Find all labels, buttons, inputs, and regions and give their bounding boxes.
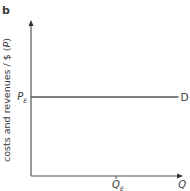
series-group: D: [31, 91, 189, 103]
y-axis-label-main: costs and revenues / $ (: [1, 48, 12, 162]
y-tick-label: PE: [17, 91, 27, 104]
chart: b D PEQE costs and revenues / $ (P) Q: [0, 0, 190, 191]
series-label-d: D: [180, 91, 188, 103]
x-axis-arrow-icon: [177, 174, 183, 179]
panel-label: b: [2, 4, 10, 17]
x-tick-label: QE: [112, 179, 124, 191]
x-axis-label: Q: [178, 179, 186, 190]
y-axis-arrow-icon: [29, 20, 34, 26]
y-axis-label: costs and revenues / $ (P): [1, 38, 12, 162]
y-axis-label-close: ): [1, 38, 12, 42]
axes: [29, 20, 184, 179]
